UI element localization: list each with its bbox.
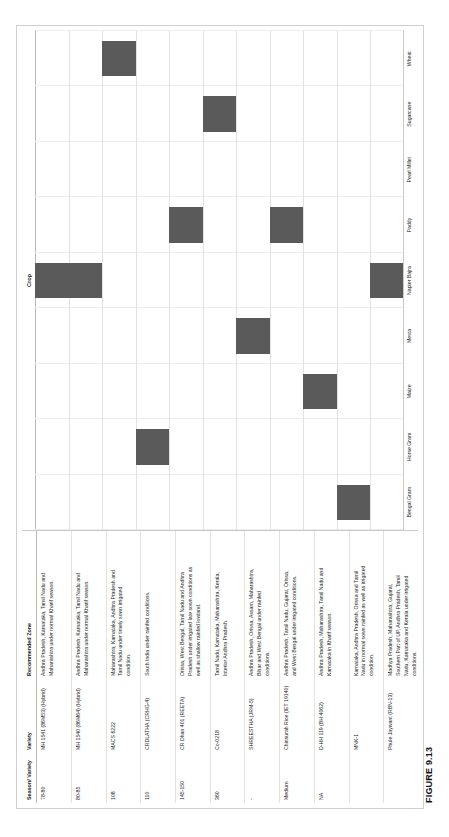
- table-row: -SHREESTHA (JRM-5)Andhra Pradesh, Orissa…: [245, 531, 280, 803]
- rotated-figure-wrapper: Season/ Variety Variety Recommended Zone…: [0, 0, 449, 837]
- figure-caption: FIGURE 9.13: [424, 747, 434, 803]
- chart-row: [35, 31, 70, 530]
- cell-zone: Andhra Pradesh, Karnataka, Tamil Nadu an…: [72, 561, 106, 679]
- cell-variety: Co-0218: [211, 679, 245, 753]
- x-axis-tick-label: Paddy: [406, 218, 412, 233]
- cell-zone: Maharashtra, Karnataka, Andhra Pradesh a…: [107, 561, 141, 679]
- chart-bar: [303, 374, 337, 409]
- cell-variety: MNK-1: [350, 679, 384, 753]
- crop-bar-chart: Crop Bengal GramHorse GramMaizeMestaNapi…: [22, 31, 418, 531]
- chart-title-bar: Crop: [22, 31, 36, 530]
- table-header-row: Season/ Variety Variety Recommended Zone: [22, 531, 37, 803]
- table-row: 78-80MH 1541 (86M53) (Hybrid)Andhra Prad…: [37, 531, 72, 803]
- chart-bar: [136, 429, 170, 464]
- row-value-axis: [211, 531, 245, 561]
- chart-bar: [69, 263, 103, 298]
- x-axis-tick-label: Napier Bajra: [406, 266, 412, 295]
- table-row: NAD-HH 119 (BH 4062)Andhra Pradesh, Maha…: [315, 531, 350, 803]
- chart-bar: [370, 263, 404, 298]
- cell-zone: Karnataka, Andhra Pradesh, Orissa and Ta…: [350, 561, 384, 679]
- cell-season: [350, 753, 384, 803]
- cell-zone: Orissa, West Bengal, Tamil Nadu and Andh…: [176, 561, 210, 679]
- chart-row: [136, 31, 171, 530]
- row-value-axis: [107, 531, 141, 561]
- header-variety: Variety: [22, 679, 36, 753]
- cell-zone: Madhya Pradesh, Maharashtra, Gujarat, So…: [384, 561, 418, 679]
- chart-bar: [270, 207, 304, 242]
- chart-row: [270, 31, 305, 530]
- row-value-axis: [176, 531, 210, 561]
- row-value-axis: [315, 531, 349, 561]
- cell-zone: Andhra Pradesh, Tamil Nadu, Gujarat, Ori…: [280, 561, 314, 679]
- table-row: 108MACS 6222Maharashtra, Karnataka, Andh…: [107, 531, 142, 803]
- cell-season: 360: [211, 753, 245, 803]
- x-axis-tick-label: Sugarcane: [406, 102, 412, 127]
- chart-bar: [203, 96, 237, 131]
- cell-zone: Andhra Pradesh, Orissa, Assam, Maharasht…: [245, 561, 279, 679]
- chart-plot-area: [35, 31, 404, 530]
- table-row: Phule Jaywant (RBN-13)Madhya Pradesh, Ma…: [384, 531, 418, 803]
- table-row: MNK-1Karnataka, Andhra Pradesh, Orissa a…: [350, 531, 385, 803]
- chart-row: [203, 31, 238, 530]
- cell-variety: CR Dhan 401 (REETA): [176, 679, 210, 753]
- x-axis-tick-label: Maize: [406, 384, 412, 398]
- cell-zone: South India under rainfed conditions.: [141, 561, 175, 679]
- x-axis-tick-label: Wheat: [406, 51, 412, 66]
- chart-bar: [35, 263, 69, 298]
- cell-variety: SHREESTHA (JRM-5): [245, 679, 279, 753]
- row-value-axis: [141, 531, 175, 561]
- chart-row: [303, 31, 338, 530]
- cell-season: -: [245, 753, 279, 803]
- chart-row: [102, 31, 137, 530]
- chart-row: [370, 31, 404, 530]
- cell-zone: Tamil Nadu, Karnataka, Maharashtra, Kera…: [211, 561, 245, 679]
- cell-season: 108: [107, 753, 141, 803]
- chart-row: [337, 31, 372, 530]
- cell-variety: Phule Jaywant (RBN-13): [384, 679, 418, 753]
- table-row: MediumChinsurah Rice (IET 19140)Andhra P…: [280, 531, 315, 803]
- chart-bar: [236, 318, 270, 353]
- cell-season: NA: [315, 753, 349, 803]
- cell-season: 110: [141, 753, 175, 803]
- chart-bar: [337, 485, 371, 520]
- chart-title: Crop: [26, 274, 32, 287]
- x-axis-tick-label: Horse Gram: [406, 433, 412, 461]
- cell-variety: D-HH 119 (BH 4062): [315, 679, 349, 753]
- cell-season: 80-85: [72, 753, 106, 803]
- row-value-axis: [37, 531, 71, 561]
- row-value-axis: [384, 531, 418, 561]
- header-value-axis: [22, 531, 36, 561]
- cell-variety: MACS 6222: [107, 679, 141, 753]
- table-row: 145-150CR Dhan 401 (REETA)Orissa, West B…: [176, 531, 211, 803]
- header-recommended-zone: Recommended Zone: [22, 561, 36, 679]
- header-season: Season/ Variety: [22, 753, 36, 803]
- figure-body: Season/ Variety Variety Recommended Zone…: [22, 31, 418, 803]
- cell-variety: CRDLATHA (CRHG-4): [141, 679, 175, 753]
- table-row: 360Co-0218Tamil Nadu, Karnataka, Maharas…: [211, 531, 246, 803]
- cell-variety: MH 1541 (86M53) (Hybrid): [37, 679, 71, 753]
- cell-season: 78-80: [37, 753, 71, 803]
- cell-season: 145-150: [176, 753, 210, 803]
- cell-zone: Andhra Pradesh, Karnataka, Tamil Nadu an…: [37, 561, 71, 679]
- cell-zone: Andhra Pradesh, Maharashtra, Tamil Nadu …: [315, 561, 349, 679]
- cell-season: [384, 753, 418, 803]
- chart-row: [169, 31, 204, 530]
- row-value-axis: [245, 531, 279, 561]
- chart-x-axis: Bengal GramHorse GramMaizeMestaNapier Ba…: [403, 31, 418, 530]
- row-value-axis: [72, 531, 106, 561]
- x-axis-tick-label: Pearl Millet: [406, 157, 412, 183]
- cell-variety: Chinsurah Rice (IET 19140): [280, 679, 314, 753]
- row-value-axis: [350, 531, 384, 561]
- chart-row: [69, 31, 104, 530]
- x-axis-tick-label: Bengal Gram: [406, 487, 412, 518]
- cell-variety: MH 1540 (86M64) (Hybrid): [72, 679, 106, 753]
- variety-table: Season/ Variety Variety Recommended Zone…: [22, 531, 418, 803]
- cell-season: Medium: [280, 753, 314, 803]
- x-axis-tick-label: Mesta: [406, 329, 412, 343]
- table-row: 80-85MH 1540 (86M64) (Hybrid)Andhra Prad…: [72, 531, 107, 803]
- chart-row: [236, 31, 271, 530]
- chart-bar: [169, 207, 203, 242]
- chart-bar: [102, 41, 136, 76]
- row-value-axis: [280, 531, 314, 561]
- table-row: 110CRDLATHA (CRHG-4)South India under ra…: [141, 531, 176, 803]
